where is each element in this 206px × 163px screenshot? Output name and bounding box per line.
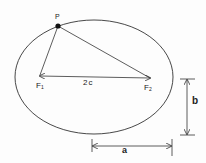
semi-major-label: a [122,146,127,155]
ellipse-figure-graphics [0,0,206,163]
point-p-label: P [55,13,60,20]
point-p-dot [55,23,60,28]
focus-f2-label: F2 [144,84,152,92]
ellipse-diagram: P F1 F2 2c b a [0,0,206,163]
focal-distance-line [40,76,150,78]
focal-distance-label: 2c [83,79,93,87]
line-p-f2 [58,26,150,78]
focus-f2-subscript: 2 [149,86,152,92]
semi-minor-label: b [192,96,198,106]
focus-f1-label: F1 [36,82,44,90]
focus-f1-subscript: 1 [41,84,44,90]
